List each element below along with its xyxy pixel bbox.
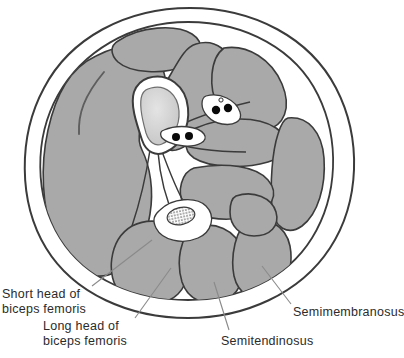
label-line-2: biceps femoris bbox=[43, 334, 127, 349]
vessel-dot-lower-1 bbox=[172, 133, 180, 141]
label-short-head-biceps-femoris: Short head of biceps femoris bbox=[2, 287, 86, 316]
label-line-1: Semimembranosus bbox=[293, 305, 404, 320]
label-long-head-biceps-femoris: Long head of biceps femoris bbox=[43, 319, 127, 348]
label-line-1: Long head of bbox=[43, 319, 127, 334]
label-line-2: biceps femoris bbox=[2, 302, 86, 317]
vessel-dot-lower-2 bbox=[185, 132, 193, 140]
vessel-dot-upper-2 bbox=[224, 104, 232, 112]
label-semimembranosus: Semimembranosus bbox=[293, 305, 404, 320]
label-line-1: Semitendinosus bbox=[221, 334, 313, 349]
label-semitendinosus: Semitendinosus bbox=[221, 334, 313, 349]
vessel-dot-upper-1 bbox=[212, 106, 220, 114]
vessel-dot-upper-small bbox=[219, 98, 223, 102]
label-line-1: Short head of bbox=[2, 287, 86, 302]
